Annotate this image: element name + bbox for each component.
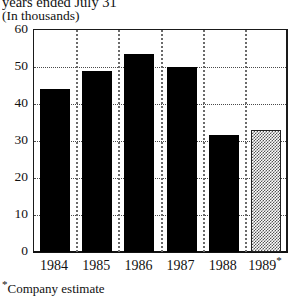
bar-1987 [167, 67, 197, 252]
gridline-x [203, 30, 205, 252]
y-tick-label: 40 [0, 96, 28, 110]
y-tick-label: 60 [0, 22, 28, 36]
gridline-x [161, 30, 163, 252]
gridline-x [118, 30, 120, 252]
y-tick-label: 10 [0, 207, 28, 221]
x-tick-label-1989: 1989* [235, 258, 295, 273]
y-tick-label: 50 [0, 59, 28, 73]
y-tick-label: 20 [0, 170, 28, 184]
bar-1989 [251, 130, 281, 252]
y-tick-label: 30 [0, 133, 28, 147]
gridline-x [76, 30, 78, 252]
y-tick-label: 0 [0, 244, 28, 258]
footnote: *Company estimate [2, 281, 105, 296]
chart-figure: years ended July 31 (In thousands) 01020… [0, 0, 297, 302]
gridline-x [245, 30, 247, 252]
plot-area [33, 29, 288, 253]
footnote-text: Company estimate [8, 281, 105, 296]
bar-1984 [40, 89, 70, 252]
bar-1985 [82, 71, 112, 252]
estimate-asterisk: * [276, 254, 282, 266]
bar-1988 [209, 135, 239, 252]
bar-1986 [124, 54, 154, 252]
